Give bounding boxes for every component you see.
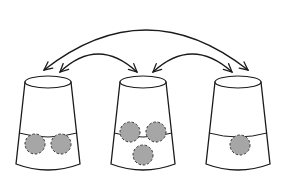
swap-left-middle-arrow <box>60 54 137 72</box>
cup-rim <box>25 76 71 88</box>
swap-middle-right-arrow <box>153 54 232 72</box>
arrow-arc <box>153 54 232 72</box>
ball <box>230 135 250 155</box>
ball <box>146 122 166 142</box>
arrow-arc <box>60 54 137 72</box>
ball <box>133 145 153 165</box>
ball <box>51 134 71 154</box>
arrow-arc <box>44 30 248 70</box>
cup-swap-diagram <box>0 0 286 188</box>
cup-left <box>16 76 80 170</box>
cup-rim <box>215 76 261 88</box>
cup-body <box>206 82 270 170</box>
arrows-layer <box>44 30 248 72</box>
cup-rim <box>120 76 166 88</box>
swap-left-right-arrow <box>44 30 248 70</box>
cups-layer <box>16 76 270 170</box>
ball <box>120 122 140 142</box>
cup-middle <box>111 76 175 170</box>
diagram-canvas <box>0 0 286 188</box>
cup-body <box>16 82 80 170</box>
ball <box>25 134 45 154</box>
cup-right <box>206 76 270 170</box>
